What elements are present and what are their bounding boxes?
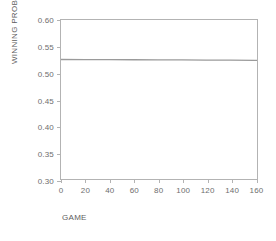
x-tick-mark xyxy=(159,179,160,183)
x-tick-label: 120 xyxy=(201,186,215,195)
series-winning-probability-path xyxy=(61,59,257,60)
y-tick-mark xyxy=(57,154,61,155)
x-tick-label: 100 xyxy=(176,186,190,195)
x-tick-label: 40 xyxy=(105,186,114,195)
x-tick-mark xyxy=(134,179,135,183)
x-tick-mark xyxy=(208,179,209,183)
y-tick-mark xyxy=(57,127,61,128)
x-tick-label: 20 xyxy=(81,186,90,195)
x-tick-mark xyxy=(257,179,258,183)
plot-area: 0.300.350.400.450.500.550.60 02040608010… xyxy=(60,19,258,180)
chart-canvas: WINNING PROBABILITY 0.300.350.400.450.50… xyxy=(0,0,276,241)
y-tick-label: 0.40 xyxy=(38,123,54,132)
x-tick-mark xyxy=(85,179,86,183)
y-tick-label: 0.60 xyxy=(38,16,54,25)
y-tick-mark xyxy=(57,20,61,21)
x-tick-label: 0 xyxy=(59,186,64,195)
y-tick-label: 0.55 xyxy=(38,42,54,51)
x-tick-label: 80 xyxy=(154,186,163,195)
y-tick-label: 0.35 xyxy=(38,150,54,159)
x-axis-title: GAME xyxy=(62,213,87,222)
x-tick-mark xyxy=(232,179,233,183)
y-tick-label: 0.50 xyxy=(38,69,54,78)
data-series-line xyxy=(61,20,257,179)
x-tick-mark xyxy=(183,179,184,183)
y-tick-label: 0.45 xyxy=(38,96,54,105)
x-tick-label: 160 xyxy=(250,186,264,195)
y-tick-label: 0.30 xyxy=(38,177,54,186)
x-tick-label: 140 xyxy=(225,186,239,195)
x-tick-label: 60 xyxy=(130,186,139,195)
y-tick-mark xyxy=(57,47,61,48)
y-tick-mark xyxy=(57,74,61,75)
x-tick-mark xyxy=(110,179,111,183)
y-tick-mark xyxy=(57,101,61,102)
y-axis-title: WINNING PROBABILITY xyxy=(10,50,19,64)
x-tick-mark xyxy=(61,179,62,183)
